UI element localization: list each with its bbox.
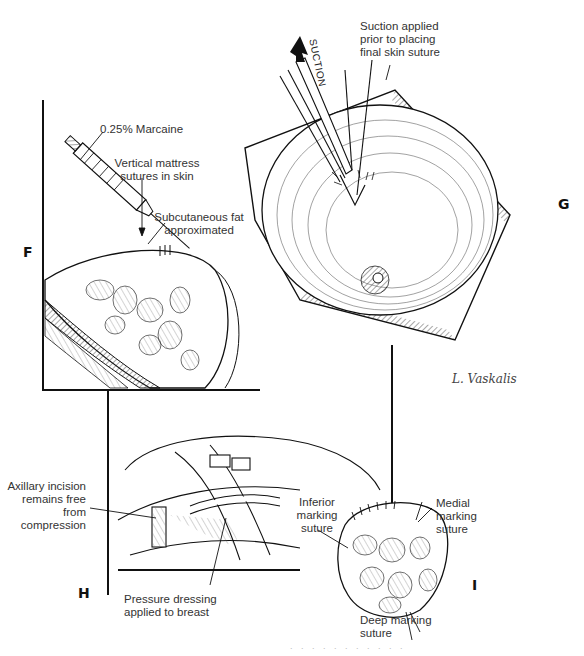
caption-fragment: . . . . . . . . . . . — [290, 641, 406, 651]
panel-g-drawing — [245, 36, 510, 340]
panel-letter-h: H — [78, 585, 90, 601]
label-pressure-dressing: Pressure dressing applied to breast — [124, 593, 217, 619]
label-deep-marking: Deep marking suture — [360, 614, 432, 640]
label-medial-marking: Medial marking suture — [436, 497, 477, 536]
panel-letter-i: I — [472, 577, 477, 593]
label-axillary-incision: Axillary incision remains free from comp… — [4, 480, 86, 532]
label-subcutaneous-fat: Subcutaneous fat approximated — [150, 211, 248, 237]
artist-signature: L. Vaskalis — [452, 372, 517, 386]
panel-letter-g: G — [558, 196, 570, 212]
label-marcaine: 0.25% Marcaine — [100, 123, 183, 136]
panel-letter-f: F — [23, 244, 33, 260]
label-vertical-mattress: Vertical mattress sutures in skin — [108, 157, 206, 183]
surgical-illustration — [0, 0, 584, 656]
label-inferior-marking: Inferior marking suture — [292, 496, 342, 535]
label-suction-applied: Suction applied prior to placing final s… — [360, 20, 440, 59]
